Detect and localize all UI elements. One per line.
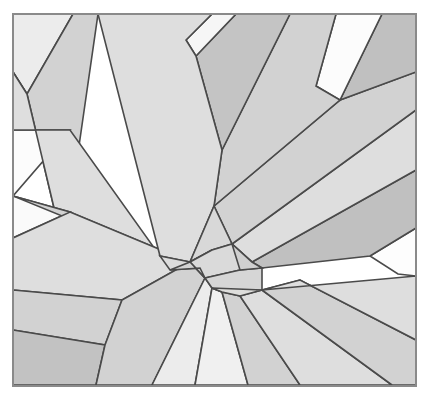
tessellation-figure: Abstract geometric tessellation Radial s… — [0, 0, 442, 404]
polygon-layer — [13, 14, 416, 385]
figure-canvas: Abstract geometric tessellation Radial s… — [0, 0, 442, 404]
